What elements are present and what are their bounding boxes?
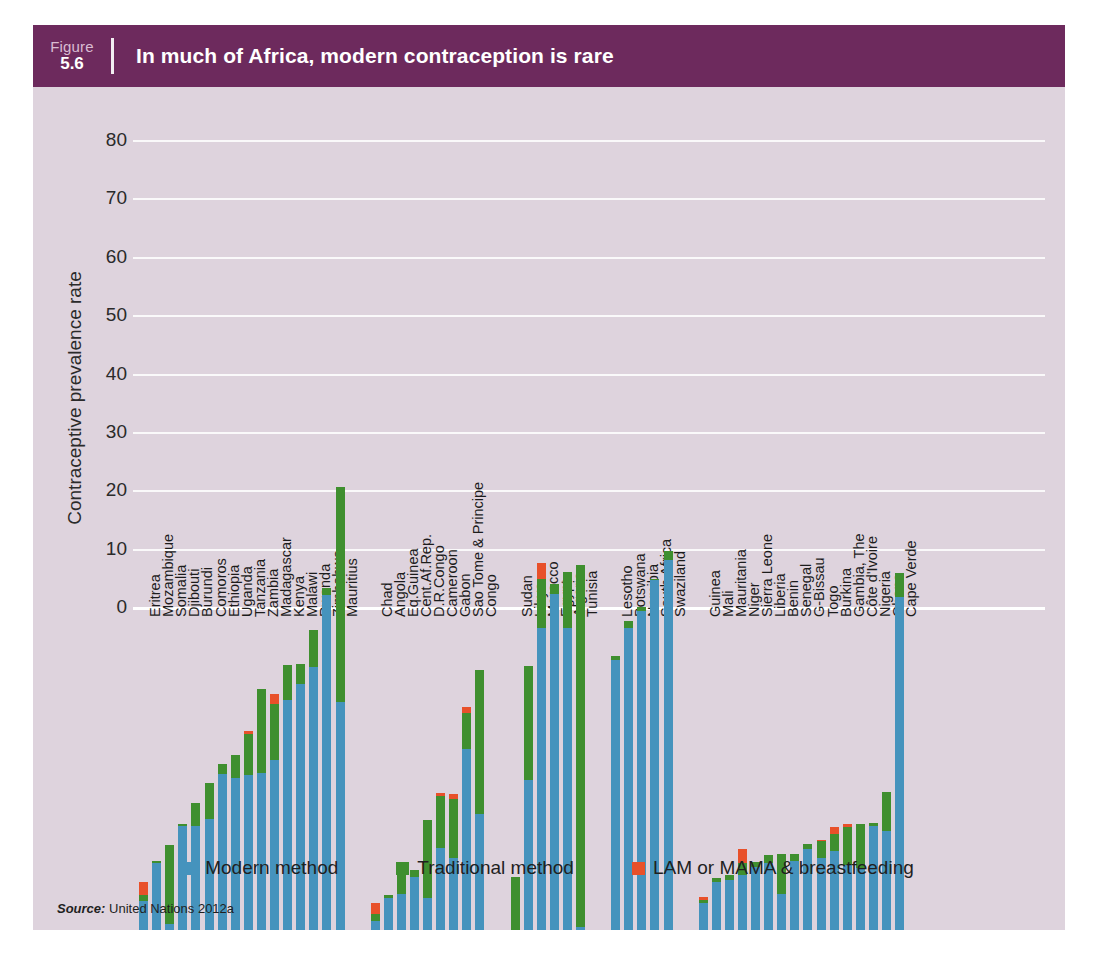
bar-column[interactable]	[664, 410, 673, 930]
x-category-label: Congo	[483, 574, 499, 617]
source-text: United Nations 2012a	[109, 901, 234, 916]
bar-segment-modern	[725, 880, 734, 930]
bar-column[interactable]	[524, 410, 533, 930]
bar-column[interactable]	[423, 410, 432, 930]
bar-segment-traditional	[244, 734, 253, 775]
legend-swatch-modern-icon	[184, 862, 197, 875]
bar-column[interactable]	[725, 410, 734, 930]
bar-column[interactable]	[751, 410, 760, 930]
bar-segment-modern	[895, 597, 904, 930]
bar-column[interactable]	[790, 410, 799, 930]
bar-segment-lam	[371, 903, 380, 915]
y-tick-label: 20	[81, 479, 127, 501]
bar-segment-modern	[882, 831, 891, 930]
legend-swatch-traditional-icon	[396, 862, 409, 875]
figure-number-block: Figure 5.6	[33, 25, 111, 87]
bar-segment-traditional	[309, 630, 318, 667]
y-tick-label: 70	[81, 187, 127, 209]
bar-column[interactable]	[830, 410, 839, 930]
y-tick-label: 40	[81, 363, 127, 385]
bar-column[interactable]	[624, 410, 633, 930]
bar-column[interactable]	[257, 410, 266, 930]
bar-column[interactable]	[322, 410, 331, 930]
bar-column[interactable]	[650, 410, 659, 930]
bar-segment-modern	[244, 775, 253, 930]
bar-column[interactable]	[178, 410, 187, 930]
bar-column[interactable]	[895, 410, 904, 930]
bar-column[interactable]	[218, 410, 227, 930]
x-category-label: Tunisia	[584, 571, 600, 617]
bar-segment-traditional	[830, 834, 839, 851]
bar-column[interactable]	[165, 410, 174, 930]
bar-segment-modern	[699, 903, 708, 930]
bar-segment-traditional	[436, 796, 445, 848]
bar-segment-traditional	[462, 713, 471, 749]
bar-column[interactable]	[244, 410, 253, 930]
bar-column[interactable]	[869, 410, 878, 930]
bar-column[interactable]	[449, 410, 458, 930]
bar-column[interactable]	[550, 410, 559, 930]
bar-segment-traditional	[475, 670, 484, 814]
bar-column[interactable]	[511, 410, 520, 930]
legend-item-modern[interactable]: Modern method	[184, 857, 338, 879]
bar-column[interactable]	[843, 410, 852, 930]
y-tick-label: 50	[81, 304, 127, 326]
bar-column[interactable]	[410, 410, 419, 930]
bar-column[interactable]	[384, 410, 393, 930]
bar-segment-traditional	[817, 841, 826, 857]
x-category-label: Cape Verde	[903, 540, 919, 617]
bar-column[interactable]	[371, 410, 380, 930]
bar-column[interactable]	[537, 410, 546, 930]
bar-column[interactable]	[296, 410, 305, 930]
legend-item-traditional[interactable]: Traditional method	[396, 857, 574, 879]
bar-segment-traditional	[257, 689, 266, 773]
bar-column[interactable]	[309, 410, 318, 930]
bar-column[interactable]	[205, 410, 214, 930]
bar-column[interactable]	[563, 410, 572, 930]
bar-column[interactable]	[803, 410, 812, 930]
bar-segment-modern	[322, 595, 331, 930]
plot-area: Contraceptive prevalence rate 0102030405…	[33, 87, 1065, 930]
bar-column[interactable]	[764, 410, 773, 930]
y-tick-label: 30	[81, 421, 127, 443]
bar-column[interactable]	[777, 410, 786, 930]
figure-container: Figure 5.6 In much of Africa, modern con…	[33, 25, 1065, 930]
bar-segment-traditional	[231, 755, 240, 778]
bar-column[interactable]	[699, 410, 708, 930]
bar-segment-traditional	[218, 764, 227, 774]
bar-segment-traditional	[511, 877, 520, 930]
bar-column[interactable]	[336, 410, 345, 930]
bar-segment-modern	[397, 894, 406, 930]
bar-segment-modern	[296, 684, 305, 930]
bar-column[interactable]	[576, 410, 585, 930]
figure-number-word: Figure	[50, 39, 94, 55]
bar-column[interactable]	[152, 410, 161, 930]
bar-column[interactable]	[139, 410, 148, 930]
bar-column[interactable]	[637, 410, 646, 930]
bar-column[interactable]	[712, 410, 721, 930]
bar-column[interactable]	[738, 410, 747, 930]
bar-segment-modern	[738, 875, 747, 930]
bar-column[interactable]	[611, 410, 620, 930]
bar-column[interactable]	[856, 410, 865, 930]
bar-column[interactable]	[191, 410, 200, 930]
bar-column[interactable]	[397, 410, 406, 930]
x-category-label: Mauritius	[344, 558, 360, 617]
bar-segment-lam	[139, 882, 148, 895]
bar-segment-modern	[550, 594, 559, 930]
bar-segment-traditional	[270, 704, 279, 759]
bar-column[interactable]	[436, 410, 445, 930]
bar-column[interactable]	[817, 410, 826, 930]
bar-column[interactable]	[231, 410, 240, 930]
bar-segment-modern	[410, 877, 419, 930]
bar-segment-modern	[423, 898, 432, 930]
bar-column[interactable]	[283, 410, 292, 930]
bar-column[interactable]	[475, 410, 484, 930]
bar-segment-traditional	[191, 803, 200, 826]
legend-item-lam[interactable]: LAM or MAMA & breastfeeding	[632, 857, 914, 879]
bar-segment-modern	[165, 924, 174, 930]
bar-column[interactable]	[882, 410, 891, 930]
bar-segment-modern	[563, 628, 572, 930]
bar-segment-modern	[309, 667, 318, 930]
bar-column[interactable]	[270, 410, 279, 930]
